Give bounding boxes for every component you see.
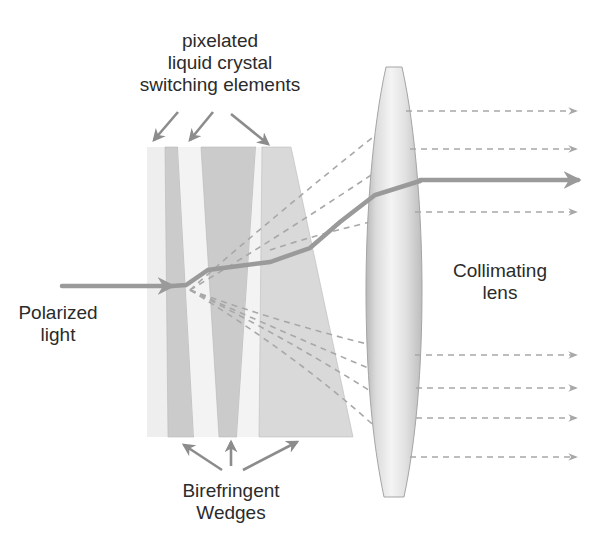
wedges-pointers xyxy=(184,442,297,470)
polarized-light-label: Polarized light xyxy=(8,302,108,346)
birefringent-wedges-label: Birefringent Wedges xyxy=(176,480,286,524)
label-line: switching elements xyxy=(118,74,322,96)
label-line: pixelated xyxy=(118,30,322,52)
label-line: Collimating xyxy=(440,260,560,282)
label-line: liquid crystal xyxy=(118,52,322,74)
birefringent-wedge-3 xyxy=(259,147,353,437)
pointer-arrow xyxy=(243,442,297,470)
pointer-arrow xyxy=(154,112,178,140)
label-line: Polarized xyxy=(8,302,108,324)
label-line: Birefringent xyxy=(176,480,286,502)
collimating-lens-label: Collimating lens xyxy=(440,260,560,304)
collimating-lens xyxy=(366,67,422,497)
pointer-arrow xyxy=(184,445,222,470)
switching-elements-pointers xyxy=(154,112,268,144)
switching-elements-label: pixelated liquid crystal switching eleme… xyxy=(118,30,322,96)
wedge-stack xyxy=(147,147,353,437)
label-line: light xyxy=(8,324,108,346)
label-line: Wedges xyxy=(176,502,286,524)
pointer-arrow xyxy=(231,114,268,144)
label-line: lens xyxy=(440,282,560,304)
pointer-arrow xyxy=(190,112,213,140)
